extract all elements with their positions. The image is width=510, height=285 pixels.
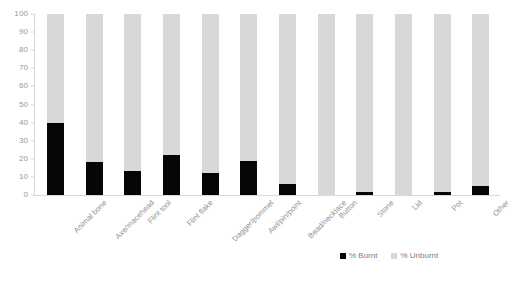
y-axis: 0102030405060708090100 [0,14,34,196]
bar-segment-burnt[interactable] [279,184,296,195]
y-axis-line [34,14,35,196]
bar-stack [356,14,373,195]
x-axis-category-label: Dagger/pommel [231,199,275,243]
x-axis-category-label: Animal bone [73,199,109,235]
bar-segment-burnt[interactable] [163,155,180,195]
y-axis-tick-mark [31,68,34,69]
y-axis-tick-label: 20 [19,155,28,163]
y-axis-tick-label: 70 [19,64,28,72]
bar-column[interactable] [434,14,451,195]
y-axis-tick-mark [31,86,34,87]
bar-stack [279,14,296,195]
bar-segment-unburnt[interactable] [472,14,489,186]
legend-swatch-icon [391,253,397,259]
x-axis-category-label: Flint flake [186,199,215,228]
bar-segment-burnt[interactable] [240,161,257,195]
y-axis-tick-mark [31,50,34,51]
bar-segment-burnt[interactable] [202,173,219,195]
y-axis-tick-mark [31,32,34,33]
bar-column[interactable] [318,14,335,195]
bar-segment-unburnt[interactable] [86,14,103,162]
bar-stack [202,14,219,195]
bar-stack [472,14,489,195]
bar-segment-unburnt[interactable] [124,14,141,171]
y-axis-tick-label: 0 [23,191,28,199]
bar-column[interactable] [240,14,257,195]
bar-stack [163,14,180,195]
bar-stack [86,14,103,195]
bar-stack [240,14,257,195]
bar-column[interactable] [356,14,373,195]
bar-segment-burnt[interactable] [472,186,489,195]
bar-segment-burnt[interactable] [47,123,64,195]
y-axis-tick-mark [31,176,34,177]
bar-segment-unburnt[interactable] [240,14,257,161]
bar-segment-unburnt[interactable] [395,14,412,195]
legend-item[interactable]: % Burnt [340,252,377,260]
bar-stack [395,14,412,195]
bar-column[interactable] [86,14,103,195]
bar-stack [124,14,141,195]
bar-stack [47,14,64,195]
bar-column[interactable] [472,14,489,195]
y-axis-tick-label: 30 [19,137,28,145]
bar-segment-unburnt[interactable] [356,14,373,192]
bar-segment-unburnt[interactable] [434,14,451,192]
bar-column[interactable] [47,14,64,195]
bar-segment-unburnt[interactable] [279,14,296,184]
y-axis-tick-label: 10 [19,173,28,181]
bar-column[interactable] [202,14,219,195]
bar-column[interactable] [395,14,412,195]
x-axis-category-label: Lid [411,199,424,212]
chart-legend: % Burnt% Unburnt [340,252,438,260]
y-axis-tick-label: 60 [19,82,28,90]
y-axis-tick-label: 40 [19,119,28,127]
bar-segment-unburnt[interactable] [318,14,335,195]
y-axis-tick-label: 90 [19,28,28,36]
legend-label: % Burnt [349,252,377,260]
legend-swatch-icon [340,253,346,259]
y-axis-tick-mark [31,140,34,141]
legend-item[interactable]: % Unburnt [391,252,438,260]
x-axis-category-label: Other [491,199,510,218]
bar-segment-burnt[interactable] [356,192,373,195]
stacked-bar-chart: 0102030405060708090100 Animal boneAxe/ma… [0,0,510,285]
x-axis-line [34,195,500,196]
y-axis-tick-mark [31,122,34,123]
legend-label: % Unburnt [400,252,438,260]
bar-column[interactable] [124,14,141,195]
y-axis-tick-mark [31,104,34,105]
y-axis-tick-mark [31,14,34,15]
y-axis-tick-mark [31,195,34,196]
bar-column[interactable] [279,14,296,195]
bar-segment-burnt[interactable] [86,162,103,195]
bar-segment-unburnt[interactable] [163,14,180,155]
y-axis-tick-label: 80 [19,46,28,54]
x-axis-category-label: Stone [376,199,396,219]
y-axis-tick-label: 50 [19,101,28,109]
bar-stack [434,14,451,195]
y-axis-tick-mark [31,158,34,159]
bar-stack [318,14,335,195]
x-axis-category-label: Pot [450,199,464,213]
y-axis-tick-label: 100 [14,10,28,18]
bar-segment-unburnt[interactable] [47,14,64,123]
plot-area [36,14,500,195]
bar-segment-burnt[interactable] [124,171,141,195]
bar-segment-burnt[interactable] [434,192,451,195]
bar-column[interactable] [163,14,180,195]
bar-segment-unburnt[interactable] [202,14,219,173]
x-axis-labels: Animal boneAxe/maceheadFlint toolFlint f… [36,197,500,253]
